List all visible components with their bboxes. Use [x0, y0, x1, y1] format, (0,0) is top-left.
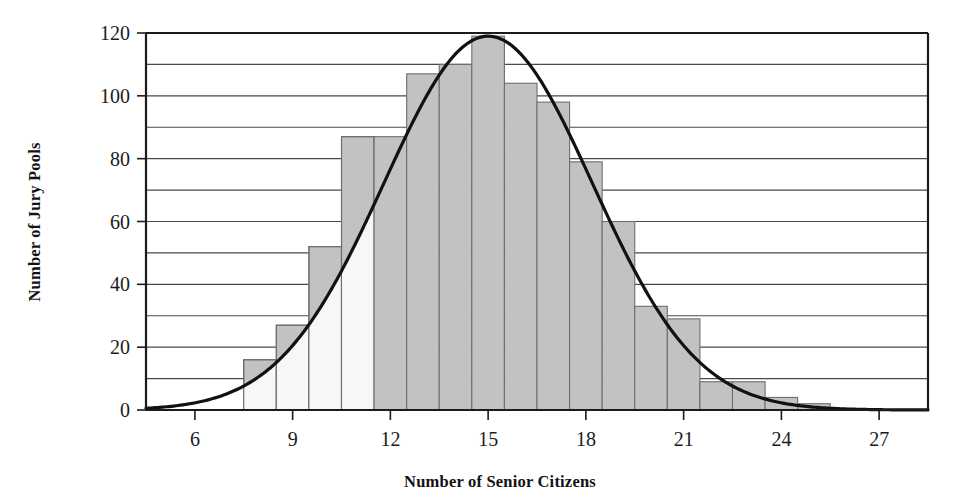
y-axis-title: Number of Jury Pools: [25, 142, 44, 301]
x-axis-title: Number of Senior Citizens: [404, 472, 596, 491]
x-tick-label: 6: [190, 428, 200, 450]
x-axis: 69121518212427: [190, 410, 889, 450]
histogram-bar: [439, 64, 472, 410]
y-tick-label: 100: [100, 85, 130, 107]
y-tick-label: 40: [110, 273, 130, 295]
bar-fill: [733, 382, 766, 410]
x-tick-label: 18: [576, 428, 596, 450]
histogram-bar: [374, 137, 407, 410]
histogram-bar: [537, 102, 570, 410]
histogram-bar: [309, 247, 342, 410]
histogram-bar: [342, 137, 375, 410]
y-axis: 020406080100120: [100, 22, 146, 421]
bar-fill: [602, 222, 635, 411]
bar-fill: [700, 382, 733, 410]
x-tick-label: 9: [288, 428, 298, 450]
x-tick-label: 12: [380, 428, 400, 450]
y-tick-label: 120: [100, 22, 130, 44]
histogram-bar: [635, 306, 668, 410]
x-tick-label: 15: [478, 428, 498, 450]
normal-approximation-histogram-chart: 020406080100120 69121518212427 Number of…: [0, 0, 972, 501]
bar-fill: [439, 64, 472, 410]
histogram-bar: [276, 325, 309, 410]
histogram-bar: [570, 162, 603, 410]
bar-fill: [472, 36, 505, 410]
y-tick-label: 80: [110, 148, 130, 170]
x-tick-label: 27: [869, 428, 889, 450]
histogram-bar: [700, 382, 733, 410]
histogram-figure: 020406080100120 69121518212427 Number of…: [0, 0, 972, 501]
bar-fill: [374, 137, 407, 410]
y-tick-label: 60: [110, 211, 130, 233]
bar-fill: [504, 83, 537, 410]
bar-fill: [570, 162, 603, 410]
histogram-bar: [504, 83, 537, 410]
y-tick-label: 0: [120, 399, 130, 421]
x-tick-label: 24: [771, 428, 791, 450]
histogram-bar: [472, 36, 505, 410]
bar-fill: [537, 102, 570, 410]
histogram-bar: [602, 222, 635, 411]
x-tick-label: 21: [674, 428, 694, 450]
bar-fill: [635, 306, 668, 410]
y-tick-label: 20: [110, 336, 130, 358]
histogram-bar: [733, 382, 766, 410]
